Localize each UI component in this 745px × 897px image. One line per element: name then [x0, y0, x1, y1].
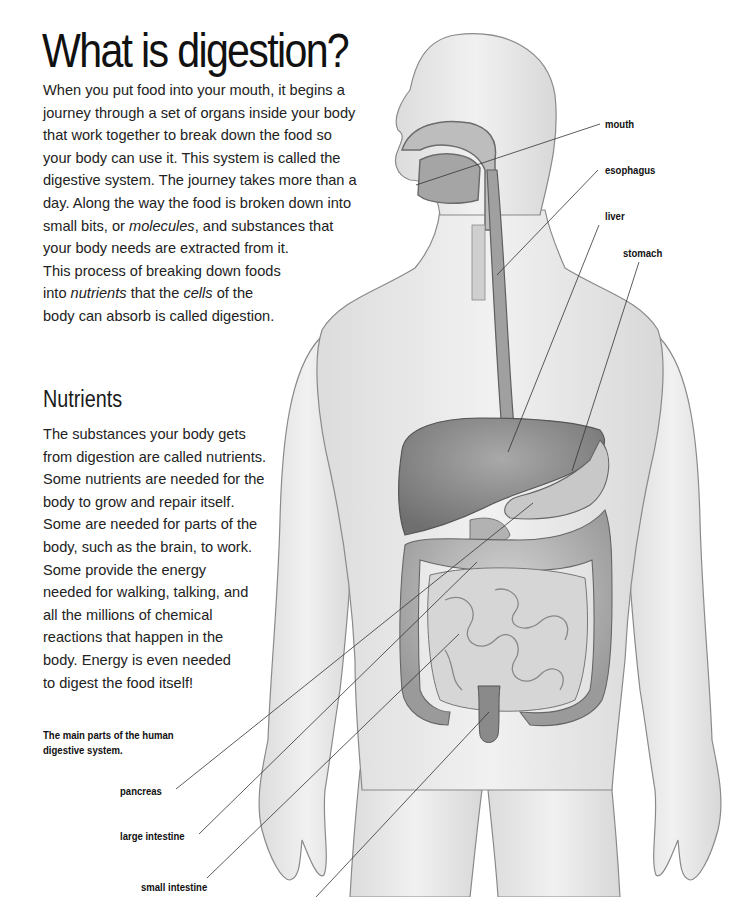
- caption-line: The main parts of the human: [43, 729, 174, 744]
- nutrients-line: body, such as the brain, to work.: [43, 536, 266, 559]
- nutrients-line: reactions that happen in the: [43, 626, 266, 649]
- label-pancreas: pancreas: [120, 785, 162, 797]
- label-liver: liver: [605, 210, 625, 222]
- label-small-intestine: small intestine: [141, 881, 207, 893]
- caption-line: digestive system.: [43, 744, 174, 759]
- intro-line: into nutrients that the cells of the: [43, 282, 357, 305]
- intro-line: your body needs are extracted from it.: [43, 237, 357, 260]
- small-intestine-shape: [428, 568, 588, 711]
- label-stomach: stomach: [623, 247, 662, 259]
- nutrients-line: needed for walking, talking, and: [43, 581, 266, 604]
- label-mouth: mouth: [605, 118, 634, 130]
- nutrients-line: body. Energy is even needed: [43, 649, 266, 672]
- nutrients-line: all the millions of chemical: [43, 604, 266, 627]
- nutrients-line: Some provide the energy: [43, 559, 266, 582]
- nutrients-line: from digestion are called nutrients.: [43, 446, 266, 469]
- nutrients-line: Some nutrients are needed for the: [43, 468, 266, 491]
- intro-line: that work together to break down the foo…: [43, 124, 357, 147]
- intro-line: body can absorb is called digestion.: [43, 305, 357, 328]
- trachea-shape: [472, 225, 485, 300]
- nutrients-heading: Nutrients: [43, 388, 122, 411]
- intro-line: When you put food into your mouth, it be…: [43, 79, 357, 102]
- figure-caption: The main parts of the humandigestive sys…: [43, 729, 174, 758]
- nutrients-line: Some are needed for parts of the: [43, 513, 266, 536]
- intro-line: This process of breaking down foods: [43, 260, 357, 283]
- intro-line: digestive system. The journey takes more…: [43, 169, 357, 192]
- intro-line: journey through a set of organs inside y…: [43, 102, 357, 125]
- label-large-intestine: large intestine: [120, 830, 185, 842]
- page-title: What is digestion?: [42, 26, 348, 75]
- label-esophagus: esophagus: [605, 164, 655, 176]
- nutrients-paragraph: The substances your body getsfrom digest…: [43, 423, 266, 694]
- nutrients-line: body to grow and repair itself.: [43, 491, 266, 514]
- intro-line: day. Along the way the food is broken do…: [43, 192, 357, 215]
- nutrients-line: The substances your body gets: [43, 423, 266, 446]
- intro-line: your body can use it. This system is cal…: [43, 147, 357, 170]
- intro-paragraph: When you put food into your mouth, it be…: [43, 79, 357, 328]
- intro-line: small bits, or molecules, and substances…: [43, 215, 357, 238]
- nutrients-line: to digest the food itself!: [43, 672, 266, 695]
- rectum-shape: [478, 686, 500, 743]
